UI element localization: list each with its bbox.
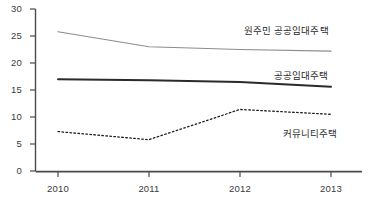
y-tick-marks	[30, 9, 36, 171]
series-label-community-housing: 커뮤니티주택	[283, 128, 338, 139]
y-tick-label-25: 25	[5, 31, 22, 41]
y-tick-label-20: 20	[5, 58, 22, 68]
y-tick-label-10: 10	[5, 112, 22, 122]
y-tick-label-0: 0	[5, 166, 22, 176]
series-label-native-public-rental: 원주민 공공임대주택	[244, 25, 329, 36]
x-tick-label-2011: 2011	[129, 183, 169, 194]
x-tick-label-2012: 2012	[220, 183, 260, 194]
line-chart: 30 25 20 15 10 5 0 2010 2011 2012 2013 원…	[0, 0, 369, 208]
series-label-public-rental: 공공임대주택	[274, 70, 329, 81]
x-tick-label-2010: 2010	[38, 183, 78, 194]
x-tick-label-2013: 2013	[311, 183, 351, 194]
y-tick-label-30: 30	[5, 4, 22, 14]
x-tick-marks	[58, 172, 331, 177]
y-tick-label-15: 15	[5, 85, 22, 95]
y-tick-label-5: 5	[5, 139, 22, 149]
